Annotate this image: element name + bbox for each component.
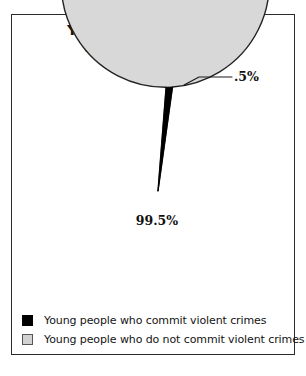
chart-title-line-2: VIOLENT CRIMES [11, 39, 295, 56]
pie-chart-figure: YOUNG PEOPLE AND VIOLENT CRIMES 99.5% .5… [0, 0, 306, 376]
legend-item-no-violent-crimes: Young people who do not commit violent c… [22, 330, 284, 349]
legend-label-no-violent-crimes: Young people who do not commit violent c… [44, 333, 304, 346]
legend-swatch-gray [22, 334, 33, 345]
chart-title: YOUNG PEOPLE AND VIOLENT CRIMES [11, 22, 295, 56]
legend-item-violent-crimes: Young people who commit violent crimes [22, 311, 284, 330]
chart-title-line-1: YOUNG PEOPLE AND [11, 22, 295, 39]
chart-frame-border [11, 14, 295, 355]
legend-label-violent-crimes: Young people who commit violent crimes [44, 314, 266, 327]
slice-value-label-major: 99.5% [118, 213, 196, 228]
chart-legend: Young people who commit violent crimes Y… [22, 311, 284, 349]
legend-swatch-black [22, 315, 33, 326]
slice-value-label-minor: .5% [234, 69, 259, 84]
